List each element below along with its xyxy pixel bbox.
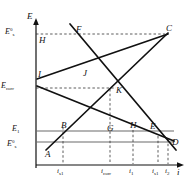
point-label-E: E: [150, 122, 156, 131]
x-axis-label: i: [177, 168, 180, 177]
point-label-F: F: [76, 25, 82, 34]
diagram-canvas: [0, 0, 189, 185]
point-label-B: B: [61, 121, 67, 130]
y-tick-Es0-bottom: E0s: [7, 140, 16, 148]
y-tick-Ecorr: Ecorr: [1, 82, 14, 90]
y-tick-E1-sub: 1: [17, 129, 20, 134]
point-label-K: K: [116, 86, 122, 95]
point-label-A: A: [45, 150, 51, 159]
point-label-G: G: [107, 124, 114, 133]
curve-I-C: [37, 34, 168, 79]
x-tick-icorr: icorr: [101, 168, 111, 175]
x-tick-i2-sub: 2: [167, 171, 170, 176]
x-tick-is1: is1: [57, 168, 63, 175]
y-tick-Es0-top: E0s: [5, 28, 14, 36]
y-axis-arrow: [33, 18, 39, 25]
x-tick-i2: i2: [165, 168, 169, 175]
point-label-H-lower: H: [130, 121, 137, 130]
y-tick-E1: E1: [12, 125, 19, 133]
x-tick-i1-sub: 1: [131, 171, 134, 176]
x-tick-i1: i1: [129, 168, 133, 175]
y-tick-Es0-top-sub: s: [12, 32, 14, 37]
x-tick-is1b: is1: [152, 168, 158, 175]
curve-I-D: [37, 86, 174, 141]
y-axis-label: E: [27, 12, 33, 21]
point-label-J: J: [83, 69, 87, 78]
point-label-C: C: [166, 24, 172, 33]
point-label-H-upper: H: [39, 36, 46, 45]
point-label-I: I: [38, 70, 41, 79]
polarization-diagram: E i E0s Ecorr E1 E0s is1 icorr i1 is1 i2…: [0, 0, 189, 185]
y-tick-Es0-bottom-sub: s: [14, 144, 16, 149]
point-label-D: D: [172, 138, 179, 147]
x-tick-is1b-sub: s1: [154, 171, 158, 176]
y-tick-Ecorr-sub: corr: [6, 86, 14, 91]
construction-lines: [36, 34, 168, 164]
x-tick-is1-sub: s1: [59, 171, 63, 176]
x-tick-icorr-sub: corr: [103, 171, 111, 176]
